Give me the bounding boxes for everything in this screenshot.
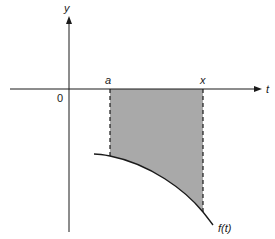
t-axis-label: t — [266, 84, 269, 95]
y-axis-arrow-icon — [66, 16, 72, 24]
t-axis-arrow-icon — [254, 86, 262, 92]
upper-bound-label: x — [200, 75, 206, 86]
y-axis-label: y — [64, 3, 70, 14]
origin-label: 0 — [57, 93, 63, 104]
lower-bound-label: a — [105, 75, 111, 86]
curve-label: f(t) — [218, 223, 231, 234]
shaded-area — [110, 89, 203, 212]
diagram-canvas — [0, 0, 275, 239]
